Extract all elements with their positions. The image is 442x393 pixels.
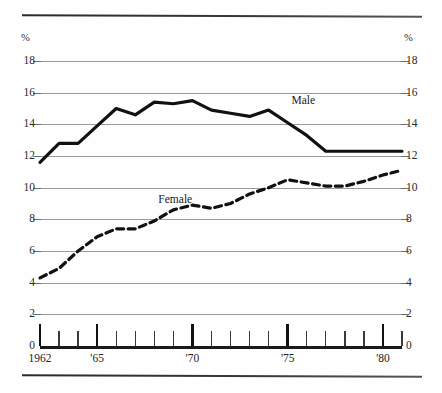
series-line-male [40, 101, 402, 163]
series-label-female: Female [158, 193, 192, 205]
series-label-male: Male [291, 94, 315, 106]
series-line-female [40, 170, 402, 278]
plot-area [0, 0, 442, 393]
chart-figure: % % 024681012141618 024681012141618 1962… [0, 0, 442, 393]
